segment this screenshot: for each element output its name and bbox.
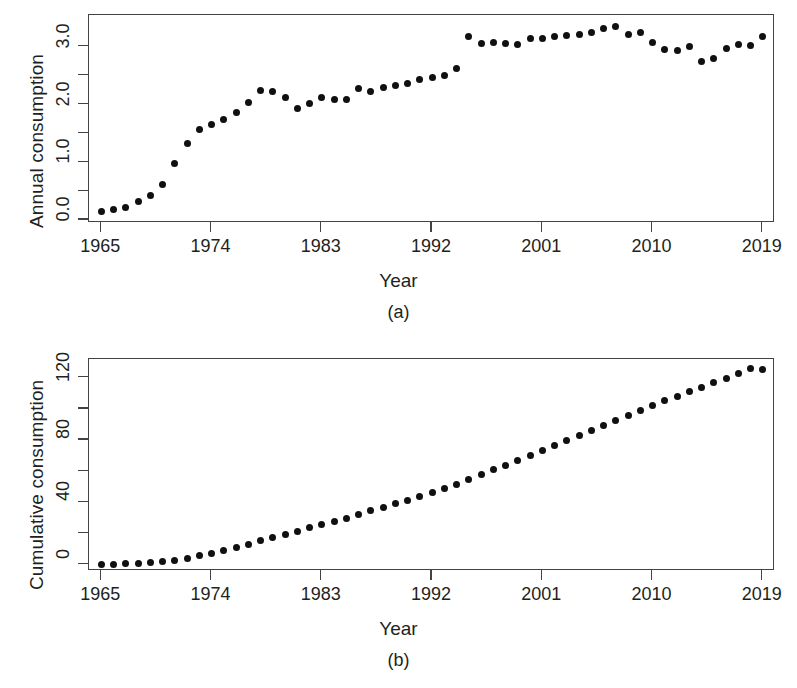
data-point: [710, 379, 717, 386]
data-point: [355, 511, 362, 518]
x-axis-tick: [651, 570, 652, 580]
x-axis-tick: [100, 222, 101, 232]
x-axis-tick-label: 1974: [166, 584, 256, 605]
x-axis-tick: [210, 570, 211, 580]
data-point: [735, 41, 742, 48]
data-point: [441, 485, 448, 492]
data-point: [759, 366, 766, 373]
data-point: [318, 94, 325, 101]
x-axis-tick-label: 1983: [276, 236, 366, 257]
x-axis-tick-label: 1992: [386, 236, 476, 257]
data-point: [380, 84, 387, 91]
panel-b-plot-area: [88, 358, 774, 570]
data-point: [563, 437, 570, 444]
data-point: [563, 32, 570, 39]
data-point: [674, 393, 681, 400]
y-axis-tick: [78, 532, 88, 533]
data-point: [478, 471, 485, 478]
x-axis-tick-label: 1974: [166, 236, 256, 257]
data-point: [747, 365, 754, 372]
x-axis-tick: [761, 570, 762, 580]
data-point: [404, 497, 411, 504]
data-point: [331, 96, 338, 103]
data-point: [527, 35, 534, 42]
data-point: [392, 500, 399, 507]
y-axis-tick: [78, 45, 88, 46]
data-point: [539, 35, 546, 42]
data-point: [392, 82, 399, 89]
x-axis-tick: [651, 222, 652, 232]
x-axis-tick: [210, 222, 211, 232]
data-point: [147, 559, 154, 566]
data-point: [355, 85, 362, 92]
data-point: [649, 39, 656, 46]
data-point: [135, 560, 142, 567]
data-point: [661, 397, 668, 404]
data-point: [257, 87, 264, 94]
data-point: [135, 198, 142, 205]
data-point: [416, 493, 423, 500]
data-point: [98, 208, 105, 215]
data-point: [343, 515, 350, 522]
y-axis-tick-label: 0.0: [53, 197, 74, 222]
x-axis-tick: [541, 570, 542, 580]
data-point: [367, 88, 374, 95]
data-point: [441, 72, 448, 79]
data-point: [612, 23, 619, 30]
data-point: [527, 452, 534, 459]
x-axis-tick: [320, 222, 321, 232]
data-point: [686, 388, 693, 395]
y-axis-tick-label: 3.0: [53, 23, 74, 48]
data-point: [159, 558, 166, 565]
data-point: [576, 31, 583, 38]
panel-b-x-axis-label: Year: [0, 618, 797, 640]
data-point: [196, 552, 203, 559]
y-axis-tick: [78, 74, 88, 75]
data-point: [612, 417, 619, 424]
data-point: [539, 447, 546, 454]
x-axis-tick-label: 2019: [717, 236, 797, 257]
x-axis-tick-label: 2010: [607, 236, 697, 257]
data-point: [698, 58, 705, 65]
data-point: [698, 384, 705, 391]
x-axis-tick: [761, 222, 762, 232]
data-point: [269, 534, 276, 541]
data-point: [502, 40, 509, 47]
data-point: [367, 507, 374, 514]
data-point: [208, 121, 215, 128]
y-axis-tick: [78, 407, 88, 408]
data-point: [686, 43, 693, 50]
data-point: [245, 99, 252, 106]
data-point: [625, 412, 632, 419]
data-point: [220, 547, 227, 554]
data-point: [600, 25, 607, 32]
data-point: [490, 466, 497, 473]
data-point: [600, 422, 607, 429]
x-axis-tick-label: 2010: [607, 584, 697, 605]
y-axis-tick-label: 0: [53, 549, 74, 559]
data-point: [147, 192, 154, 199]
y-axis-tick: [78, 563, 88, 564]
x-axis-tick-label: 2001: [496, 236, 586, 257]
x-axis-tick-label: 1965: [55, 236, 145, 257]
data-point: [269, 88, 276, 95]
data-point: [282, 94, 289, 101]
y-axis-tick: [78, 103, 88, 104]
data-point: [723, 375, 730, 382]
x-axis-tick-label: 1983: [276, 584, 366, 605]
data-point: [184, 140, 191, 147]
data-point: [159, 181, 166, 188]
data-point: [429, 74, 436, 81]
data-point: [637, 407, 644, 414]
y-axis-tick-label: 2.0: [53, 81, 74, 106]
data-point: [453, 65, 460, 72]
data-point: [294, 528, 301, 535]
y-axis-tick: [78, 190, 88, 191]
data-point: [723, 45, 730, 52]
y-axis-tick-label: 80: [53, 419, 74, 439]
panel-b-tag: (b): [0, 650, 797, 671]
data-point: [171, 160, 178, 167]
data-point: [429, 489, 436, 496]
y-axis-tick-label: 1.0: [53, 139, 74, 164]
data-point: [625, 31, 632, 38]
